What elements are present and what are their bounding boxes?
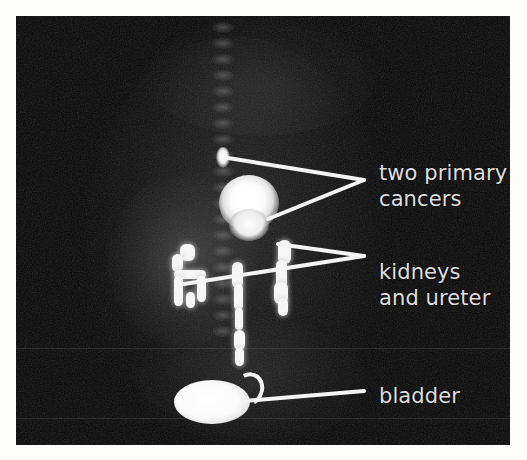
kidney-left [172,244,208,310]
annotation-label-bladder: bladder [379,383,460,409]
bladder [174,372,274,424]
upper-body-silhouette [146,16,376,136]
annotation-label-kidneys: kidneys and ureter [379,259,490,311]
pet-scan-figure: two primary cancers kidneys and ureter b… [0,0,527,460]
annotation-label-kidneys-line1: kidneys [379,260,461,284]
leader-line-cancer-main [268,180,364,219]
leader-line-cancer-upper [228,158,364,180]
ureter [222,262,252,368]
annotation-label-kidneys-line2: and ureter [379,286,490,310]
annotation-label-cancers: two primary cancers [379,160,507,212]
scan-seam-artifact [16,348,510,349]
kidney-right [274,240,298,318]
annotation-label-cancers-line1: two primary [379,161,507,185]
annotation-label-bladder-line1: bladder [379,384,460,408]
tumor-main-lower-lobe [229,209,269,241]
annotation-label-cancers-line2: cancers [379,187,461,211]
scan-image: two primary cancers kidneys and ureter b… [16,16,510,445]
